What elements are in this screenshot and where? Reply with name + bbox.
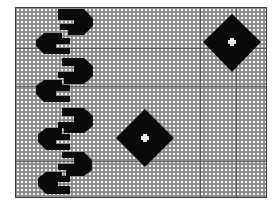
diamond-motif-lower-center xyxy=(116,109,174,167)
diamond-motif-upper-right xyxy=(203,14,261,72)
hook-column-motif xyxy=(36,9,93,194)
motif-layer xyxy=(0,0,280,208)
